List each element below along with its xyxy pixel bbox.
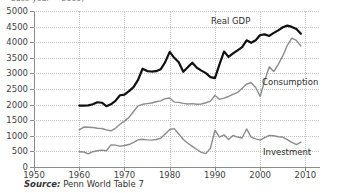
y-tick-label-1000: 1000 (0, 131, 28, 141)
y-tick-mark-500 (30, 151, 34, 152)
y-tick-label-3500: 3500 (0, 53, 28, 63)
figure-container: base year = 2005) 0500100015002000250030… (0, 0, 337, 193)
series-label-real-gdp: Real GDP (211, 16, 250, 26)
x-axis-line (34, 167, 320, 168)
x-tick-mark-2000 (260, 167, 261, 171)
y-tick-label-1500: 1500 (0, 115, 28, 125)
top-caption-remnant: base year = 2005) (11, 0, 84, 3)
x-tick-mark-2010 (305, 167, 306, 171)
y-tick-mark-2000 (30, 105, 34, 106)
source-text: Penn World Table 7 (63, 179, 144, 189)
x-tick-label-1980: 1980 (159, 170, 181, 180)
source-note: Source: Penn World Table 7 (24, 179, 144, 189)
y-tick-mark-5000 (30, 11, 34, 12)
source-prefix: Source: (24, 179, 60, 189)
y-tick-label-3000: 3000 (0, 68, 28, 78)
series-label-consumption: Consumption (262, 77, 318, 87)
y-tick-mark-4500 (30, 27, 34, 28)
series-lines (34, 11, 319, 167)
y-tick-label-2000: 2000 (0, 100, 28, 110)
series-label-investment: Investment (263, 147, 311, 157)
x-tick-label-1990: 1990 (204, 170, 226, 180)
y-tick-label-5000: 5000 (0, 6, 28, 16)
y-tick-label-500: 500 (0, 146, 28, 156)
line-real-gdp (79, 26, 301, 107)
plot-area (34, 11, 319, 167)
y-tick-mark-3500 (30, 58, 34, 59)
y-tick-label-2500: 2500 (0, 84, 28, 94)
x-tick-mark-1960 (79, 167, 80, 171)
y-tick-mark-2500 (30, 89, 34, 90)
x-tick-mark-1980 (170, 167, 171, 171)
x-tick-mark-1990 (215, 167, 216, 171)
y-tick-mark-4000 (30, 42, 34, 43)
x-tick-label-2010: 2010 (295, 170, 317, 180)
y-tick-label-4000: 4000 (0, 37, 28, 47)
x-tick-label-2000: 2000 (249, 170, 271, 180)
x-tick-mark-1950 (34, 167, 35, 171)
y-tick-mark-3000 (30, 73, 34, 74)
y-tick-mark-1000 (30, 136, 34, 137)
y-tick-label-4500: 4500 (0, 22, 28, 32)
y-tick-mark-1500 (30, 120, 34, 121)
x-tick-mark-1970 (124, 167, 125, 171)
